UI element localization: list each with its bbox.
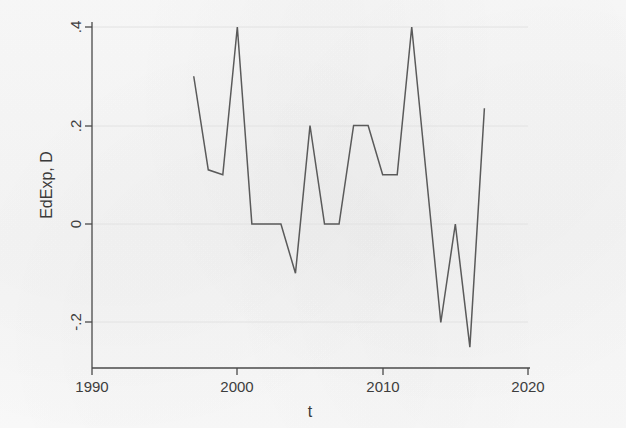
x-tick-label-2020: 2020 [511, 378, 544, 395]
x-tick-label-1990: 1990 [75, 378, 108, 395]
y-tick-label-0: 0 [67, 220, 84, 228]
y-tick-label-0.2: .2 [67, 120, 84, 133]
chart-screenshot: .4 .2 0 -.2 EdExp, D 1990 2000 2010 2020… [0, 0, 626, 428]
series-line-edexp [194, 27, 485, 347]
x-axis: 1990 2000 2010 2020 t [75, 368, 544, 420]
y-tick-label-minus0.2: -.2 [67, 313, 84, 331]
line-chart-plot: .4 .2 0 -.2 EdExp, D 1990 2000 2010 2020… [0, 0, 626, 428]
gridlines [92, 27, 528, 322]
x-axis-title: t [308, 403, 313, 420]
y-axis-title: EdExp, D [38, 151, 55, 219]
x-tick-label-2010: 2010 [366, 378, 399, 395]
y-axis: .4 .2 0 -.2 EdExp, D [38, 21, 92, 368]
y-tick-label-0.4: .4 [67, 21, 84, 34]
x-tick-label-2000: 2000 [220, 378, 253, 395]
